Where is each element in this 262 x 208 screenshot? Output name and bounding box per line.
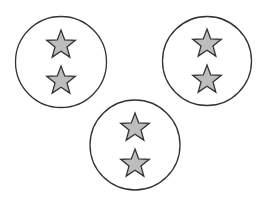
diagram-canvas	[0, 0, 262, 208]
circle-group-top-right	[163, 17, 252, 106]
star-icon	[121, 113, 150, 140]
star-icon	[193, 65, 222, 92]
star-icon	[193, 29, 222, 56]
star-icon	[47, 30, 76, 57]
star-icon	[121, 149, 150, 176]
circle-group-bottom-center	[90, 100, 180, 190]
circle-group-top-left	[16, 17, 107, 108]
star-icon	[47, 66, 76, 93]
